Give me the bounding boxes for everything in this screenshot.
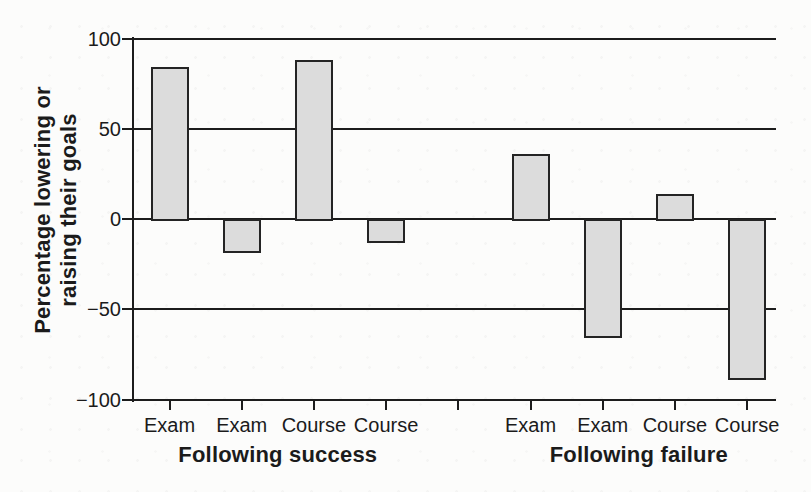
x-tick bbox=[313, 400, 315, 410]
x-tick bbox=[602, 400, 604, 410]
bar-success-exam-1 bbox=[151, 67, 189, 221]
bar-failure-exam-2 bbox=[584, 219, 622, 338]
y-tick-label-50: 50 bbox=[51, 117, 121, 141]
bar-failure-exam-1 bbox=[512, 154, 550, 221]
x-tick bbox=[746, 400, 748, 410]
group-label-failure: Following failure bbox=[550, 442, 728, 468]
x-tick bbox=[169, 400, 171, 410]
y-tick-50 bbox=[122, 128, 132, 130]
y-tick-label-0: 0 bbox=[51, 207, 121, 231]
gridline-50 bbox=[133, 128, 776, 130]
gridline-100 bbox=[133, 38, 776, 40]
x-tick bbox=[385, 400, 387, 410]
chart-canvas: Percentage lowering or raising their goa… bbox=[0, 0, 811, 492]
x-tick bbox=[674, 400, 676, 410]
bar-success-exam-2 bbox=[223, 219, 261, 253]
x-axis-line bbox=[133, 399, 776, 401]
y-tick-0 bbox=[122, 218, 132, 220]
y-tick-100 bbox=[122, 38, 132, 40]
bar-failure-course-3 bbox=[656, 194, 694, 221]
x-tick-middle-unlabeled bbox=[457, 400, 459, 410]
y-tick--50 bbox=[122, 308, 132, 310]
x-category-label: Course bbox=[338, 413, 434, 437]
bar-success-course-3 bbox=[295, 60, 333, 221]
bar-failure-course-4 bbox=[728, 219, 766, 380]
y-tick--100 bbox=[122, 399, 132, 401]
y-axis-line bbox=[132, 37, 134, 402]
y-tick-label--100: −100 bbox=[51, 388, 121, 412]
gridline--50 bbox=[133, 308, 776, 310]
y-tick-label-100: 100 bbox=[51, 27, 121, 51]
bar-success-course-4 bbox=[367, 219, 405, 243]
x-category-label: Course bbox=[699, 413, 795, 437]
x-tick bbox=[530, 400, 532, 410]
group-label-success: Following success bbox=[178, 442, 377, 468]
y-tick-label--50: −50 bbox=[51, 297, 121, 321]
x-tick bbox=[241, 400, 243, 410]
